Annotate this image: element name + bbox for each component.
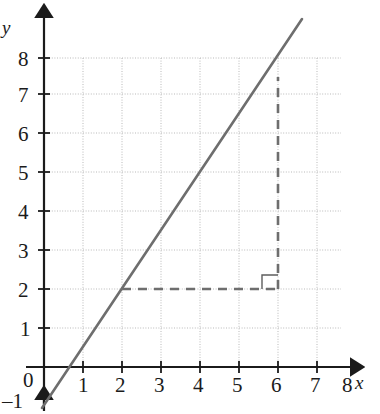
coordinate-plane bbox=[0, 0, 380, 414]
y-tick-label-2: 2 bbox=[18, 280, 29, 301]
y-tick-label-1: 1 bbox=[20, 319, 31, 340]
x-axis bbox=[26, 361, 352, 373]
y-tick-label-neg1: –1 bbox=[2, 391, 23, 412]
x-tick-label-7: 7 bbox=[310, 375, 321, 396]
x-tick-label-4: 4 bbox=[193, 375, 204, 396]
gridlines-vertical bbox=[83, 58, 317, 367]
gridlines-horizontal bbox=[44, 58, 341, 328]
y-tick-label-3: 3 bbox=[18, 241, 29, 262]
data-line-solid bbox=[42, 19, 302, 408]
x-tick-label-3: 3 bbox=[154, 375, 165, 396]
origin-label: 0 bbox=[23, 370, 34, 391]
y-tick-label-6: 6 bbox=[18, 124, 29, 145]
x-axis-label: x bbox=[355, 373, 363, 392]
y-tick-label-5: 5 bbox=[18, 163, 29, 184]
x-tick-label-2: 2 bbox=[115, 375, 126, 396]
y-tick-label-8: 8 bbox=[18, 49, 29, 70]
x-tick-label-6: 6 bbox=[271, 375, 282, 396]
y-tick-label-7: 7 bbox=[18, 85, 29, 106]
x-tick-label-5: 5 bbox=[232, 375, 243, 396]
x-tick-label-1: 1 bbox=[78, 375, 89, 396]
y-axis bbox=[38, 16, 50, 411]
y-axis-label: y bbox=[2, 18, 10, 37]
graph-figure: y x 0 –1 1 2 3 4 5 6 7 8 1 2 3 4 5 6 7 8 bbox=[0, 0, 380, 414]
x-tick-label-8: 8 bbox=[342, 375, 353, 396]
right-angle-marker bbox=[262, 275, 278, 289]
y-tick-label-4: 4 bbox=[18, 202, 29, 223]
